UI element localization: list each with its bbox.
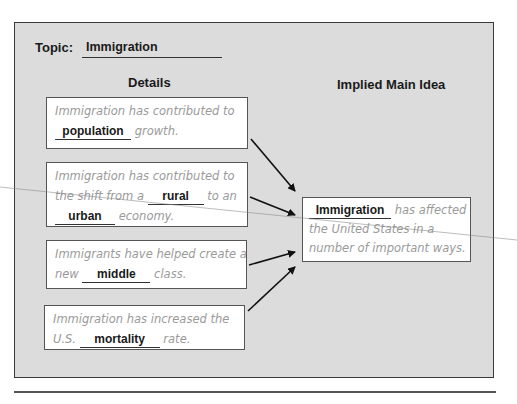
scan-artifact-line (0, 187, 517, 240)
arrows-overlay (0, 0, 517, 404)
arrow-icon (248, 267, 295, 311)
arrow-icon (250, 197, 295, 215)
bottom-rule (14, 391, 496, 393)
arrow-icon (251, 139, 295, 191)
arrow-icon (249, 252, 295, 265)
